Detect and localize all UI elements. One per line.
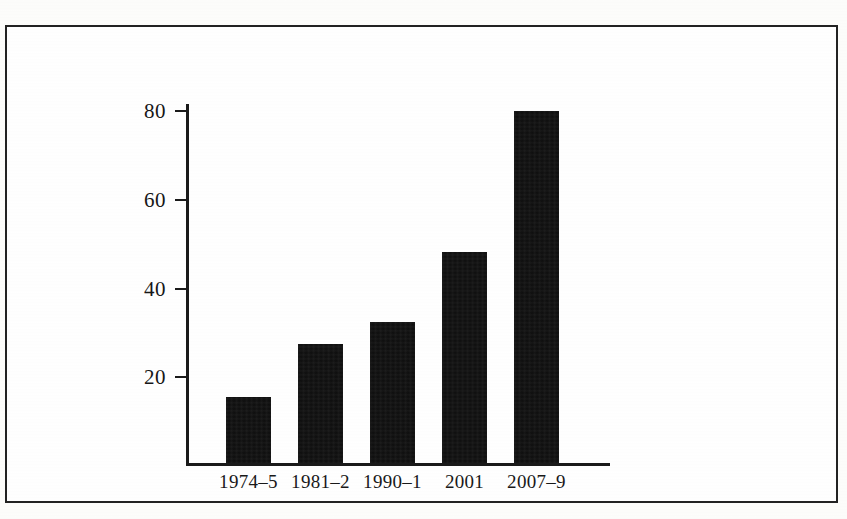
chart-page: 80 60 40 20 1974–5 1981–2 1990–1 2001 20… xyxy=(0,0,847,519)
y-tick-label-40-wrap: 40 xyxy=(104,277,166,299)
bar-chart: 80 60 40 20 1974–5 1981–2 1990–1 2001 20… xyxy=(0,0,847,519)
bar-1 xyxy=(298,344,343,463)
y-axis-line xyxy=(186,104,189,466)
y-tick-label-60: 60 xyxy=(108,188,166,213)
y-tick-label-20-wrap: 20 xyxy=(104,365,166,387)
y-tick-label-60-wrap: 60 xyxy=(104,188,166,210)
y-tick-label-80-wrap: 80 xyxy=(104,99,166,121)
y-tick-label-80: 80 xyxy=(108,99,166,124)
bar-0 xyxy=(226,397,271,463)
x-category-label-4: 2007–9 xyxy=(477,471,597,493)
bar-4 xyxy=(514,111,559,463)
y-tick-40 xyxy=(175,288,187,290)
bar-3 xyxy=(442,252,487,463)
y-tick-20 xyxy=(175,376,187,378)
y-tick-label-40: 40 xyxy=(108,277,166,302)
y-tick-80 xyxy=(175,110,187,112)
x-axis-line xyxy=(186,463,610,466)
bar-2 xyxy=(370,322,415,463)
y-tick-60 xyxy=(175,199,187,201)
y-tick-label-20: 20 xyxy=(108,365,166,390)
